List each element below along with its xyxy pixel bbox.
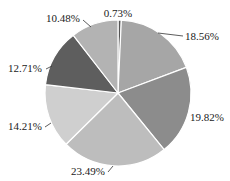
leader-line-6 [83, 20, 91, 27]
pie-slices [45, 20, 191, 166]
slice-label-2: 19.82% [190, 111, 224, 123]
leader-line-3 [108, 166, 113, 172]
slice-label-3: 23.49% [71, 165, 105, 177]
leader-line-4 [45, 123, 51, 127]
pie-chart: 0.73% 18.56% 19.82% 23.49% 14.21% 12.71%… [0, 0, 230, 181]
slice-label-5: 12.71% [8, 62, 42, 74]
slice-label-4: 14.21% [8, 120, 42, 132]
slice-label-1: 18.56% [185, 30, 219, 42]
slice-label-0: 0.73% [104, 7, 132, 19]
slice-label-6: 10.48% [46, 12, 80, 24]
